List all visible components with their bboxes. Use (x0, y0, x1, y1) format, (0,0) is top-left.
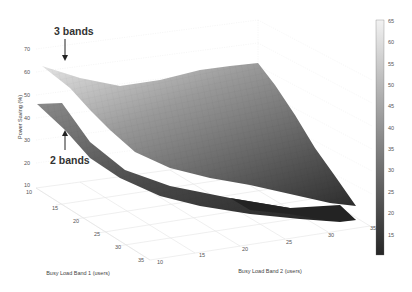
surface-3-bands (42, 63, 356, 206)
surface-plot: 70 60 50 40 30 20 10 Power Saving (%) 10… (0, 0, 412, 292)
z-axis: 70 60 50 40 30 20 10 Power Saving (%) (17, 46, 30, 188)
colorbar: 65 60 55 50 45 40 35 30 25 20 15 (376, 18, 394, 255)
y-tick: 25 (94, 231, 100, 237)
x-tick: 25 (286, 239, 292, 245)
colorbar-tick: 15 (388, 232, 394, 238)
annotation-text: 2 bands (50, 154, 90, 166)
x-tick: 15 (199, 252, 205, 258)
arrow-down-icon (62, 55, 68, 61)
x-tick: 10 (157, 259, 163, 265)
z-tick: 40 (24, 115, 30, 121)
x-axis-label: Busy Load Band 2 (users) (238, 268, 302, 274)
colorbar-tick: 55 (388, 61, 394, 67)
x-tick: 30 (328, 232, 334, 238)
colorbar-tick: 30 (388, 167, 394, 173)
z-tick: 20 (24, 160, 30, 166)
colorbar-tick: 50 (388, 82, 394, 88)
z-tick: 30 (24, 137, 30, 143)
z-tick: 60 (24, 69, 30, 75)
z-axis-label: Power Saving (%) (17, 95, 23, 139)
x-tick: 35 (370, 225, 376, 231)
y-tick: 15 (52, 205, 58, 211)
z-tick: 70 (24, 46, 30, 52)
colorbar-tick: 45 (388, 103, 394, 109)
y-tick: 30 (115, 244, 121, 250)
y-axis-label: Busy Load Band 1 (users) (46, 270, 110, 276)
colorbar-tick: 60 (388, 39, 394, 45)
colorbar-tick: 65 (388, 18, 394, 24)
colorbar-tick: 40 (388, 125, 394, 131)
y-axis-band1: 10 15 20 25 30 35 Busy Load Band 1 (user… (26, 189, 144, 276)
z-tick: 50 (24, 92, 30, 98)
z-tick: 10 (24, 182, 30, 188)
y-tick: 35 (138, 257, 144, 263)
colorbar-tick: 20 (388, 210, 394, 216)
y-tick: 20 (73, 218, 79, 224)
annotation-text: 3 bands (54, 25, 94, 37)
y-tick: 10 (26, 189, 32, 195)
annotation-3-bands: 3 bands (54, 25, 94, 61)
colorbar-tick: 25 (388, 189, 394, 195)
colorbar-tick: 35 (388, 146, 394, 152)
x-tick: 20 (242, 246, 248, 252)
